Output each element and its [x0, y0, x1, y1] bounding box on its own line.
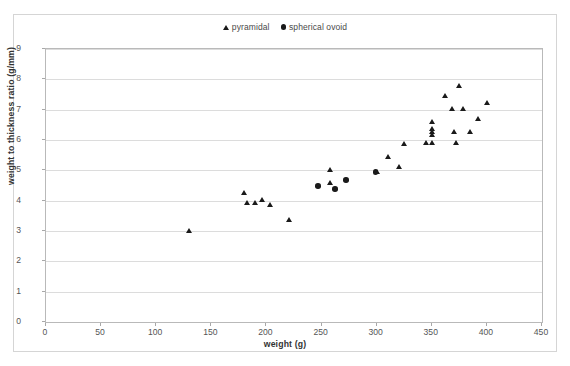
data-point-pyramidal — [286, 217, 292, 222]
clipped-header-text — [14, 9, 556, 16]
data-point-pyramidal — [429, 119, 435, 124]
x-axis-tick-label: 300 — [356, 327, 396, 337]
data-point-pyramidal — [429, 132, 435, 137]
triangle-marker-icon — [223, 25, 229, 30]
legend-label: spherical ovoid — [289, 22, 347, 32]
data-point-pyramidal — [385, 154, 391, 159]
data-point-pyramidal — [453, 140, 459, 145]
x-axis-tick-label: 100 — [135, 327, 175, 337]
x-axis-title: weight (g) — [14, 339, 556, 349]
data-point-pyramidal — [396, 164, 402, 169]
data-point-pyramidal — [484, 100, 490, 105]
y-axis-tick-label: 7 — [0, 104, 21, 114]
y-axis-tick-label: 0 — [0, 316, 21, 326]
y-axis-tick-mark — [42, 169, 45, 170]
x-axis-tick-mark — [321, 323, 322, 326]
x-axis-tick-label: 400 — [466, 327, 506, 337]
y-axis-tick-label: 8 — [0, 73, 21, 83]
x-axis-tick-mark — [376, 323, 377, 326]
gridline — [46, 140, 542, 141]
x-axis-tick-label: 250 — [301, 327, 341, 337]
y-axis-tick-mark — [42, 321, 45, 322]
y-axis-tick-mark — [42, 109, 45, 110]
x-axis-tick-mark — [155, 323, 156, 326]
data-point-pyramidal — [460, 106, 466, 111]
data-point-pyramidal — [449, 106, 455, 111]
gridline — [46, 292, 542, 293]
chart-container: pyramidalspherical ovoid weight to thick… — [13, 14, 557, 352]
data-point-pyramidal — [244, 200, 250, 205]
gridline — [46, 110, 542, 111]
gridline — [46, 261, 542, 262]
data-point-pyramidal — [241, 190, 247, 195]
y-axis-tick-label: 5 — [0, 164, 21, 174]
legend-entry-pyramidal: pyramidal — [223, 22, 270, 32]
data-point-pyramidal — [327, 180, 333, 185]
y-axis-tick-label: 4 — [0, 195, 21, 205]
gridline — [46, 49, 542, 50]
x-axis-tick-mark — [100, 323, 101, 326]
data-point-pyramidal — [267, 202, 273, 207]
data-point-pyramidal — [442, 93, 448, 98]
data-point-spherical-ovoid — [315, 183, 321, 189]
x-axis-tick-mark — [210, 323, 211, 326]
y-axis-tick-mark — [42, 230, 45, 231]
data-point-pyramidal — [401, 141, 407, 146]
circle-marker-icon — [281, 24, 286, 29]
x-axis-tick-mark — [486, 323, 487, 326]
x-axis-tick-label: 150 — [190, 327, 230, 337]
y-axis-tick-label: 3 — [0, 225, 21, 235]
gridline — [46, 231, 542, 232]
y-axis-tick-label: 6 — [0, 134, 21, 144]
data-point-pyramidal — [186, 228, 192, 233]
x-axis-tick-label: 200 — [245, 327, 285, 337]
y-axis-tick-label: 9 — [0, 43, 21, 53]
plot-area — [45, 48, 543, 323]
data-point-pyramidal — [252, 200, 258, 205]
legend-label: pyramidal — [232, 22, 270, 32]
x-axis-tick-label: 450 — [521, 327, 561, 337]
x-axis-tick-label: 50 — [80, 327, 120, 337]
y-axis-tick-label: 2 — [0, 255, 21, 265]
data-point-pyramidal — [475, 116, 481, 121]
data-point-pyramidal — [327, 167, 333, 172]
y-axis-tick-mark — [42, 48, 45, 49]
data-point-spherical-ovoid — [343, 177, 349, 183]
y-axis-tick-mark — [42, 291, 45, 292]
x-axis-tick-label: 350 — [411, 327, 451, 337]
data-point-spherical-ovoid — [332, 186, 338, 192]
data-point-pyramidal — [259, 197, 265, 202]
data-point-pyramidal — [456, 83, 462, 88]
x-axis-tick-mark — [541, 323, 542, 326]
data-point-spherical-ovoid — [373, 169, 379, 175]
data-point-pyramidal — [451, 129, 457, 134]
x-axis-tick-mark — [431, 323, 432, 326]
gridline — [46, 79, 542, 80]
legend-entry-spherical-ovoid: spherical ovoid — [281, 22, 348, 32]
x-axis-tick-mark — [45, 323, 46, 326]
y-axis-tick-mark — [42, 139, 45, 140]
y-axis-tick-mark — [42, 78, 45, 79]
gridline — [46, 201, 542, 202]
gridline — [46, 170, 542, 171]
y-axis-tick-label: 1 — [0, 286, 21, 296]
x-axis-tick-label: 0 — [25, 327, 65, 337]
data-point-pyramidal — [429, 140, 435, 145]
x-axis-tick-mark — [265, 323, 266, 326]
y-axis-tick-mark — [42, 200, 45, 201]
y-axis-tick-mark — [42, 260, 45, 261]
data-point-pyramidal — [467, 129, 473, 134]
chart-legend: pyramidalspherical ovoid — [14, 22, 556, 32]
